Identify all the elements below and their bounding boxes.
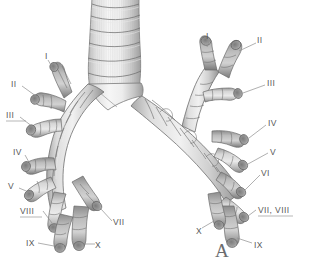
anatomy-illustration: [0, 0, 313, 280]
segment-label-left-III: III: [6, 111, 14, 120]
leader-right-III: [243, 85, 265, 93]
right-segment-III-bronchus: [203, 88, 243, 102]
right-main-bronchus: [131, 36, 251, 248]
segment-label-right-IV: IV: [268, 119, 277, 128]
segment-label-right-IX: IX: [254, 241, 263, 250]
segment-label-left-IX: IX: [26, 239, 35, 248]
trachea: [88, 0, 141, 88]
segment-label-right-VII-VIII: VII, VIII: [258, 206, 289, 215]
leader-right-X: [202, 221, 214, 228]
segment-label-right-X: X: [196, 227, 202, 236]
segment-label-right-III: III: [267, 79, 275, 88]
segment-label-right-I: I: [206, 32, 209, 41]
leader-right-VI: [245, 175, 260, 190]
segment-label-left-X: X: [95, 241, 101, 250]
bronchial-tree-figure: IIIIIIIVVVIIIIXVIIX IIIIIIIVVVIVII, VIII…: [0, 0, 313, 280]
segment-label-right-II: II: [257, 36, 263, 45]
segment-label-left-V: V: [8, 182, 14, 191]
segment-label-left-VIII: VIII: [20, 207, 34, 216]
panel-label-A: A: [215, 241, 229, 260]
leader-right-V: [248, 153, 268, 164]
leader-left-IX: [38, 243, 54, 246]
segment-label-left-IV: IV: [13, 148, 22, 157]
left-main-bronchus: [20, 61, 104, 253]
leader-left-III: [20, 117, 33, 127]
right-segment-II-bronchus: [218, 39, 242, 78]
segment-label-right-V: V: [270, 148, 276, 157]
leader-right-IV: [249, 125, 266, 138]
segment-label-right-VI: VI: [261, 169, 270, 178]
segment-label-left-VII: VII: [113, 218, 125, 227]
segment-label-left-II: II: [11, 80, 17, 89]
right-segment-IV-bronchus: [212, 131, 250, 148]
leader-left-VII: [101, 209, 112, 221]
segment-label-left-I: I: [45, 52, 48, 61]
leader-right-VII-VIII: [248, 210, 256, 216]
illustration-group: [6, 0, 293, 253]
